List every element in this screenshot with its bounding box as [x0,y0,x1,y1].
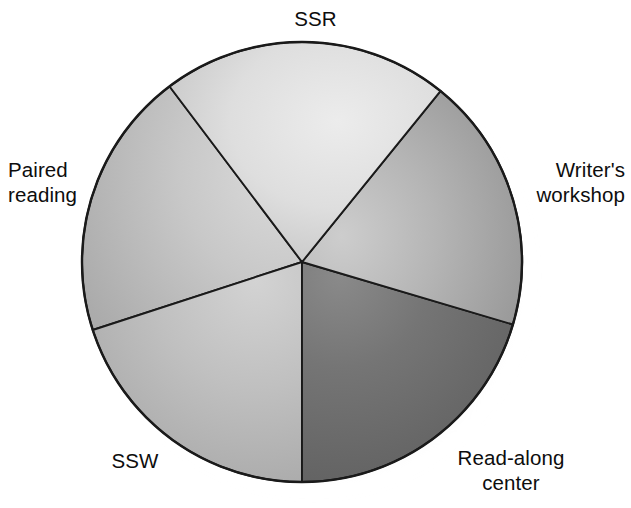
pie-label-paired-reading: Paired reading [8,157,178,207]
pie-chart-graphic [0,0,631,508]
pie-label-writers-workshop: Writer's workshop [435,157,625,207]
pie-label-read-along-center: Read-along center [401,445,621,495]
pie-chart-figure: SSR Writer's workshop Paired reading SSW… [0,0,631,508]
pie-label-ssw: SSW [60,448,210,473]
pie-label-ssr: SSR [0,6,631,31]
